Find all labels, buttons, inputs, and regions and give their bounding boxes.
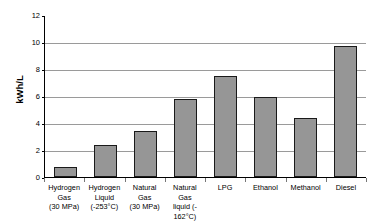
bar[interactable] — [334, 46, 357, 177]
x-axis-tickmark — [245, 178, 246, 182]
bar[interactable] — [214, 76, 237, 177]
x-axis-category-label-line: liquid (- — [166, 202, 204, 212]
x-axis-category-label: NaturalGas(30 MPa) — [125, 183, 165, 221]
y-axis-tick-label: 4 — [36, 120, 40, 128]
x-axis-category-label-line: Ethanol — [246, 183, 284, 193]
x-axis-category-label-line: Natural Gas — [166, 183, 204, 202]
x-axis-category-label-line: Diesel — [327, 183, 365, 193]
x-axis-category-label: Methanol — [286, 183, 326, 221]
x-axis-tickmark — [165, 178, 166, 182]
x-axis-tickmark — [286, 178, 287, 182]
plot-area — [44, 16, 366, 178]
x-axis-tickmarks — [44, 178, 366, 182]
x-axis-category-label-line: Gas — [126, 193, 164, 203]
x-axis-category-label-line: (30 MPa) — [126, 202, 164, 212]
x-axis-category-label-line: LPG — [206, 183, 244, 193]
y-axis-tick-label: 6 — [36, 93, 40, 101]
y-axis-tick-label: 0 — [36, 174, 40, 182]
x-axis-tickmark — [326, 178, 327, 182]
y-axis-tick-label: 2 — [36, 147, 40, 155]
bar-slot — [286, 16, 326, 177]
x-axis-category-label-line: Gas — [45, 193, 83, 203]
x-axis-category-labels: HydrogenGas(30 MPa)HydrogenLiquid(-253°C… — [44, 183, 366, 221]
bar-slot — [206, 16, 246, 177]
y-axis-tick-labels: 121086420 — [24, 16, 40, 178]
bars-container — [45, 16, 366, 177]
x-axis-category-label-line: Natural — [126, 183, 164, 193]
x-axis-category-label: LPG — [205, 183, 245, 221]
bar[interactable] — [254, 97, 277, 177]
x-axis-tickmark — [125, 178, 126, 182]
x-axis-category-label-line: Hydrogen — [45, 183, 83, 193]
x-axis-category-label-line: Methanol — [287, 183, 325, 193]
x-axis-category-label-line: Liquid — [85, 193, 123, 203]
bar-slot — [326, 16, 366, 177]
x-axis-category-label-line: (-253°C) — [85, 202, 123, 212]
bar-slot — [165, 16, 205, 177]
bar-slot — [85, 16, 125, 177]
bar-slot — [45, 16, 85, 177]
x-axis-category-label: HydrogenGas(30 MPa) — [44, 183, 84, 221]
x-axis-category-label-line: Hydrogen — [85, 183, 123, 193]
y-axis-tick-label: 8 — [36, 66, 40, 74]
bar[interactable] — [54, 167, 77, 177]
bar-slot — [125, 16, 165, 177]
x-axis-category-label: Ethanol — [245, 183, 285, 221]
bar-slot — [246, 16, 286, 177]
bar-chart: kWh/L 121086420 HydrogenGas(30 MPa)Hydro… — [0, 0, 374, 221]
x-axis-tickmark — [366, 178, 367, 182]
bar[interactable] — [294, 118, 317, 177]
bar[interactable] — [94, 145, 117, 177]
x-axis-tickmark — [44, 178, 45, 182]
x-axis-tickmark — [205, 178, 206, 182]
y-axis-tick-label: 12 — [32, 12, 40, 20]
y-axis-title-label: kWh/L — [14, 75, 25, 104]
bar[interactable] — [174, 99, 197, 177]
x-axis-category-label: HydrogenLiquid(-253°C) — [84, 183, 124, 221]
x-axis-category-label-line: 162°C) — [166, 212, 204, 221]
x-axis-category-label: Natural Gasliquid (-162°C) — [165, 183, 205, 221]
x-axis-tickmark — [84, 178, 85, 182]
bar[interactable] — [134, 131, 157, 177]
y-axis-tick-label: 10 — [32, 39, 40, 47]
x-axis-category-label: Diesel — [326, 183, 366, 221]
x-axis-category-label-line: (30 MPa) — [45, 202, 83, 212]
